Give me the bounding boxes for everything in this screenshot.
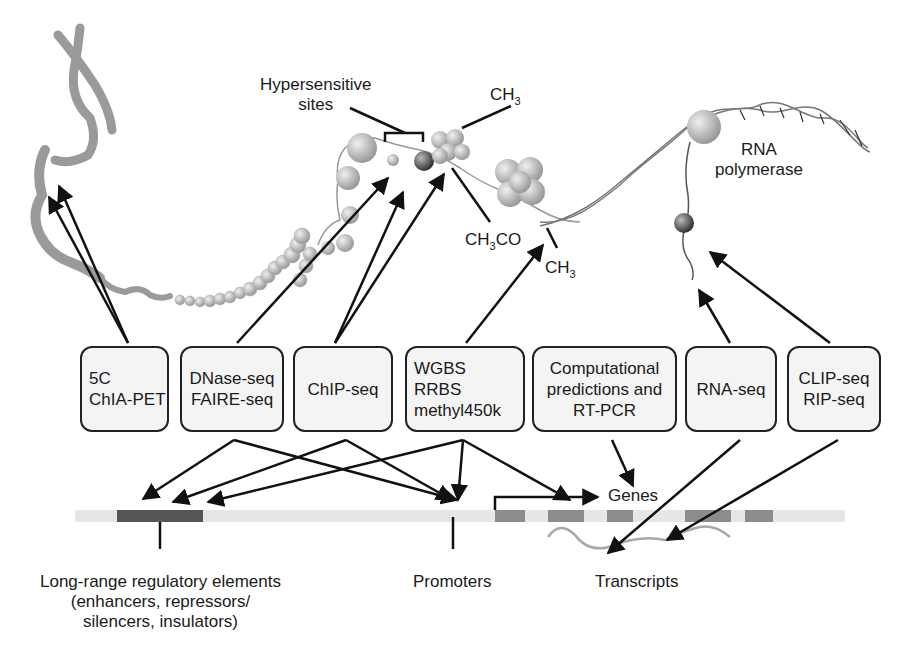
ch3-bottom-label: CH3 (545, 258, 576, 279)
diagram-graphics (0, 0, 901, 653)
upward-arrows (49, 174, 830, 343)
transcripts-label: Transcripts (595, 572, 678, 592)
promoters-label: Promoters (413, 572, 491, 592)
rna-polymerase-label: RNA polymerase (715, 140, 803, 180)
assay-box-computational: Computational predictions and RT-PCR (532, 346, 677, 432)
downward-arrows (143, 440, 838, 553)
hypersensitive-sites-label: Hypersensitive sites (260, 75, 372, 115)
assay-box-rna-seq: RNA-seq (685, 346, 777, 432)
long-range-elements-label: Long-range regulatory elements (enhancer… (38, 572, 283, 632)
nucleosome-icon (318, 129, 580, 255)
assay-box-dnase-faire: DNase-seq FAIRE-seq (180, 346, 284, 432)
genes-label: Genes (608, 486, 658, 506)
transcript-wave-icon (548, 526, 730, 548)
assay-box-methylation: WGBS RRBS methyl450k (405, 346, 525, 432)
assay-box-5c-chiapet: 5C ChIA-PET (80, 346, 169, 432)
genome-track (75, 510, 845, 522)
tss-arrow (495, 497, 598, 510)
ch3-top-label: CH3 (490, 85, 521, 106)
assay-box-clip-rip: CLIP-seq RIP-seq (787, 346, 881, 432)
encode-assay-diagram: Hypersensitive sites CH3 CH3CO CH3 RNA p… (0, 0, 901, 653)
chromatin-fiber-icon (175, 228, 317, 307)
ch3co-label: CH3CO (465, 230, 521, 251)
assay-box-chip-seq: ChIP-seq (293, 346, 393, 432)
chromosome-icon (35, 28, 170, 298)
